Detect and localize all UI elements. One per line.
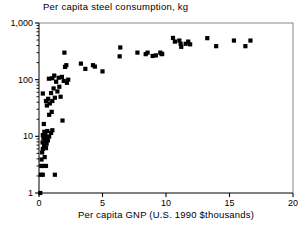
data-point <box>49 91 53 95</box>
data-point <box>53 96 57 100</box>
data-point <box>52 73 56 77</box>
data-point <box>188 42 192 46</box>
data-point <box>38 191 42 195</box>
data-point <box>232 38 236 42</box>
data-point <box>60 118 64 122</box>
data-point <box>205 36 209 40</box>
y-axis-ticks <box>35 23 39 193</box>
x-tick-label: 20 <box>288 198 298 208</box>
data-point <box>62 79 66 83</box>
data-point <box>93 65 97 69</box>
data-point <box>41 173 45 177</box>
plot-frame <box>39 23 293 193</box>
data-point <box>243 44 247 48</box>
data-point <box>52 86 56 90</box>
data-point <box>154 53 158 57</box>
data-point <box>58 95 62 99</box>
chart-figure: Per capita steel consumption, kg 1101001… <box>0 0 308 227</box>
data-point <box>53 173 57 177</box>
data-point <box>45 129 49 133</box>
data-point <box>54 80 58 84</box>
data-point <box>173 39 177 43</box>
data-point <box>42 122 46 126</box>
data-point <box>60 75 64 79</box>
data-point <box>179 45 183 49</box>
y-tick-label: 10 <box>23 131 33 141</box>
data-point <box>100 69 104 73</box>
data-point <box>66 78 70 82</box>
x-axis-ticks <box>39 193 293 197</box>
data-point <box>50 110 54 114</box>
data-point <box>62 51 66 55</box>
data-point <box>248 38 252 42</box>
y-tick-label: 1 <box>28 188 33 198</box>
data-point <box>43 155 47 159</box>
data-point <box>83 67 87 71</box>
data-point <box>118 45 122 49</box>
data-point <box>118 54 122 58</box>
x-tick-label: 5 <box>100 198 105 208</box>
data-point <box>214 44 218 48</box>
data-point <box>79 62 83 66</box>
x-axis-label: Per capita GNP (U.S. 1990 $thousands) <box>78 209 254 220</box>
data-point <box>160 52 164 56</box>
y-tick-label: 1,000 <box>10 18 33 28</box>
x-tick-label: 10 <box>161 198 171 208</box>
data-point <box>135 51 139 55</box>
data-point <box>44 164 48 168</box>
data-point <box>145 51 149 55</box>
data-point <box>41 91 45 95</box>
data-point <box>46 97 50 101</box>
x-tick-label: 0 <box>36 198 41 208</box>
y-tick-label: 100 <box>18 75 33 85</box>
data-point <box>55 89 59 93</box>
data-point-group <box>38 36 252 195</box>
data-point <box>64 63 68 67</box>
data-point <box>47 134 51 138</box>
x-tick-label: 15 <box>224 198 234 208</box>
data-point <box>171 36 175 40</box>
scatter-plot <box>0 0 308 227</box>
data-point <box>57 85 61 89</box>
data-point <box>50 128 54 132</box>
